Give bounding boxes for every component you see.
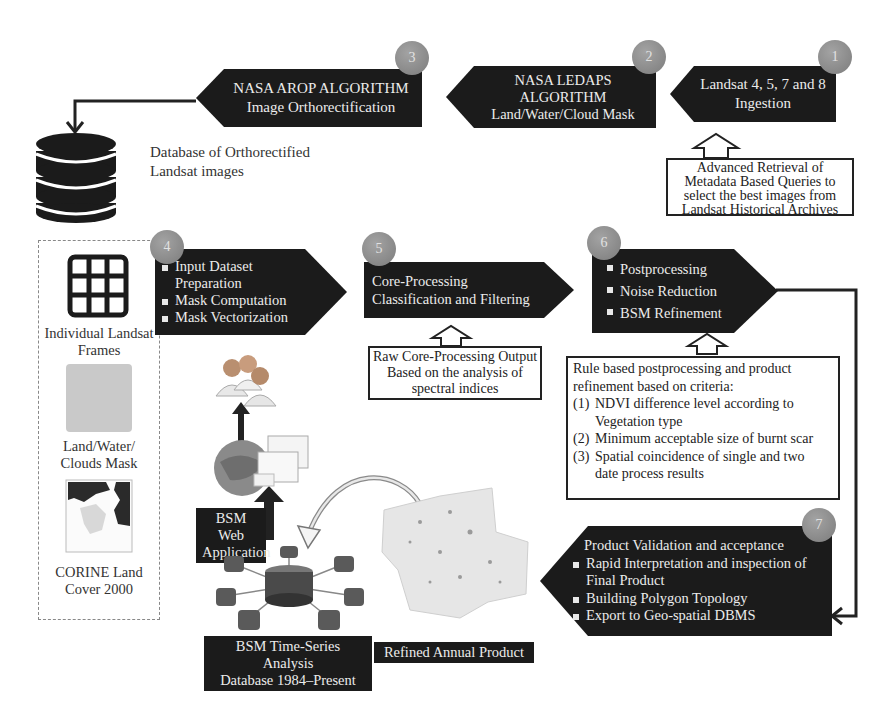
step-1-line-1: Landsat 4, 5, 7 and 8 [690, 75, 836, 94]
retrieval-line-3: select the best images from [668, 189, 852, 203]
rule-item-1: (1) NDVI difference level according toVe… [573, 395, 838, 430]
retrieval-line-4: Landsat Historical Archives [668, 203, 852, 217]
mask-caption: Land/Water/ Clouds Mask [38, 438, 160, 472]
database-caption: Database of Orthorectified Landsat image… [150, 143, 310, 181]
step-5-banner: Core-Processing Classification and Filte… [364, 262, 574, 318]
retrieval-line-1: Advanced Retrieval of [668, 161, 852, 175]
rule-1-line-2: Vegetation type [595, 413, 794, 431]
rule-3-num: (3) [573, 448, 595, 483]
rule-3-line-1: Spatial coincidence of single and two [595, 448, 805, 466]
step-7-banner: Product Validation and acceptance Rapid … [540, 526, 832, 636]
step-3-banner: NASA AROP ALGORITHM Image Orthorectifica… [196, 69, 422, 127]
step-4-badge: 4 [150, 230, 184, 264]
step-5-line-1: Core-Processing [372, 272, 552, 290]
step-7-title: Product Validation and acceptance [570, 537, 830, 555]
refined-product-map [380, 482, 530, 622]
retrieval-note: Advanced Retrieval of Metadata Based Que… [666, 158, 854, 216]
retrieval-line-2: Metadata Based Queries to [668, 175, 852, 189]
step-1-line-2: Ingestion [690, 94, 836, 113]
step-3-line-1: NASA AROP ALGORITHM [222, 79, 420, 98]
database-icon [35, 132, 117, 224]
raw-output-line-3: spectral indices [370, 381, 540, 397]
step-5-line-2: Classification and Filtering [372, 290, 552, 308]
rule-item-3: (3) Spatial coincidence of single and tw… [573, 448, 838, 483]
database-caption-line-2: Landsat images [150, 162, 310, 181]
frames-caption-line-2: Frames [36, 342, 162, 359]
rules-intro-line-2: refinement based on criteria: [573, 378, 838, 396]
step-7-badge: 7 [802, 508, 836, 542]
rules-note: Rule based postprocessing and product re… [566, 356, 840, 500]
corine-caption-line-2: Cover 2000 [38, 581, 160, 598]
step-2-banner: NASA LEDAPS ALGORITHM Land/Water/Cloud M… [446, 66, 656, 128]
step-2-line-1: NASA LEDAPS [470, 72, 656, 89]
raw-output-line-2: Based on the analysis of [370, 365, 540, 381]
frames-caption-line-1: Individual Landsat [36, 325, 162, 342]
timeseries-line-1: BSM Time-Series Analysis [210, 638, 366, 672]
rule-2-num: (2) [573, 430, 595, 448]
mask-caption-line-1: Land/Water/ [38, 438, 160, 455]
frames-grid-icon [68, 255, 128, 317]
raw-output-line-1: Raw Core-Processing Output [370, 349, 540, 365]
step-6-bullet-3: BSM Refinement [604, 302, 744, 324]
step-4-bullet-3: Mask Vectorization [159, 309, 309, 326]
web-app-line-1: BSM Web [202, 510, 260, 544]
step-6-banner: Postprocessing Noise Reduction BSM Refin… [592, 249, 778, 333]
timeseries-label: BSM Time-Series Analysis Database 1984–P… [204, 636, 372, 691]
step-6-bullet-1: Postprocessing [604, 258, 744, 280]
database-caption-line-1: Database of Orthorectified [150, 143, 310, 162]
step-2-badge: 2 [632, 40, 666, 74]
rule-item-2: (2) Minimum acceptable size of burnt sca… [573, 430, 838, 448]
step-2-line-3: Land/Water/Cloud Mask [470, 106, 656, 123]
step-6-bullet-2: Noise Reduction [604, 280, 744, 302]
step-3-line-2: Image Orthorectification [222, 98, 420, 117]
step-4-banner: Input Dataset Preparation Mask Computati… [155, 249, 347, 335]
rules-intro-line-1: Rule based postprocessing and product [573, 360, 838, 378]
step-4-bullet-1: Input Dataset Preparation [159, 258, 309, 292]
step-7-bullet-3: Export to Geo-spatial DBMS [570, 607, 830, 625]
step-3-badge: 3 [395, 41, 429, 75]
step-6-badge: 6 [587, 226, 621, 260]
users-icon [210, 356, 280, 406]
refined-product-text: Refined Annual Product [380, 644, 528, 661]
timeseries-line-2: Database 1984–Present [210, 672, 366, 689]
rule-1-num: (1) [573, 395, 595, 430]
step-1-banner: Landsat 4, 5, 7 and 8 Ingestion [670, 66, 836, 122]
mask-caption-line-2: Clouds Mask [38, 455, 160, 472]
globe-icon [210, 434, 310, 504]
rule-3-line-2: date process results [595, 465, 805, 483]
step-7-bullet-2: Building Polygon Topology [570, 590, 830, 608]
timeseries-database-icon [214, 546, 364, 634]
step-2-line-2: ALGORITHM [470, 89, 656, 106]
step-5-badge: 5 [362, 232, 396, 266]
step-1-badge: 1 [818, 40, 852, 74]
rule-1-line-1: NDVI difference level according to [595, 395, 794, 413]
rule-2-line-1: Minimum acceptable size of burnt scar [595, 430, 813, 448]
corine-caption-line-1: CORINE Land [38, 564, 160, 581]
step-7-bullet-1: Rapid Interpretation and inspection of F… [570, 555, 830, 590]
frames-caption: Individual Landsat Frames [36, 325, 162, 359]
corine-caption: CORINE Land Cover 2000 [38, 564, 160, 598]
mask-thumbnail [66, 364, 132, 432]
refined-product-label: Refined Annual Product [374, 642, 534, 663]
raw-output-note: Raw Core-Processing Output Based on the … [368, 346, 542, 400]
corine-map-thumbnail [66, 480, 132, 552]
step-4-bullet-2: Mask Computation [159, 292, 309, 309]
